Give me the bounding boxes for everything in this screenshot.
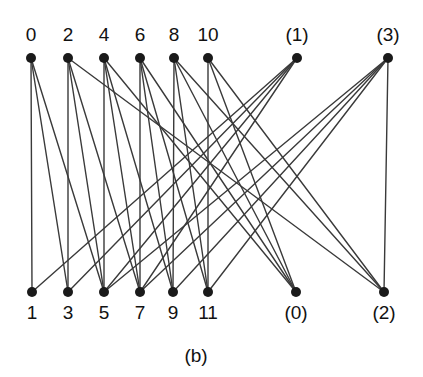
graph-edge <box>384 58 388 292</box>
node-label: 11 <box>198 302 218 324</box>
graph-edge <box>173 58 174 292</box>
graph-node[interactable] <box>63 53 73 63</box>
node-label: (0) <box>284 302 307 324</box>
node-label: 8 <box>169 24 180 46</box>
graph-node[interactable] <box>203 287 213 297</box>
graph-node[interactable] <box>27 287 37 297</box>
graph-edge <box>68 58 297 292</box>
graph-node[interactable] <box>291 287 301 297</box>
graph-node[interactable] <box>292 53 302 63</box>
node-label: 6 <box>135 24 146 46</box>
graph-edge <box>68 58 104 292</box>
node-layer <box>26 53 393 297</box>
graph-edge <box>31 58 68 292</box>
graph-node[interactable] <box>99 287 109 297</box>
graph-edge <box>174 58 208 292</box>
graph-edge <box>104 58 140 292</box>
graph-edge <box>208 58 296 292</box>
node-label: 4 <box>99 24 110 46</box>
node-label: 3 <box>63 302 74 324</box>
graph-node[interactable] <box>135 287 145 297</box>
node-label: (1) <box>285 24 308 46</box>
node-label: (3) <box>376 24 399 46</box>
graph-node[interactable] <box>26 53 36 63</box>
graph-edge <box>68 58 384 292</box>
bipartite-graph-figure: 0246810(1)(3)1357911(0)(2) (b) <box>0 0 423 377</box>
graph-edge <box>140 58 173 292</box>
edge-layer <box>31 58 388 292</box>
node-label: 7 <box>135 302 146 324</box>
graph-edge <box>31 58 32 292</box>
node-label: 5 <box>99 302 110 324</box>
graph-node[interactable] <box>63 287 73 297</box>
node-label: 1 <box>27 302 38 324</box>
node-label: 2 <box>63 24 74 46</box>
node-label: (2) <box>372 302 395 324</box>
graph-node[interactable] <box>168 287 178 297</box>
node-label: 10 <box>197 24 218 46</box>
node-label: 9 <box>168 302 179 324</box>
graph-node[interactable] <box>169 53 179 63</box>
graph-node[interactable] <box>203 53 213 63</box>
node-label: 0 <box>26 24 37 46</box>
graph-edge <box>140 58 388 292</box>
graph-node[interactable] <box>135 53 145 63</box>
graph-node[interactable] <box>379 287 389 297</box>
graph-node[interactable] <box>383 53 393 63</box>
graph-edge <box>32 58 297 292</box>
figure-caption: (b) <box>184 345 207 367</box>
graph-edge <box>104 58 388 292</box>
graph-node[interactable] <box>99 53 109 63</box>
